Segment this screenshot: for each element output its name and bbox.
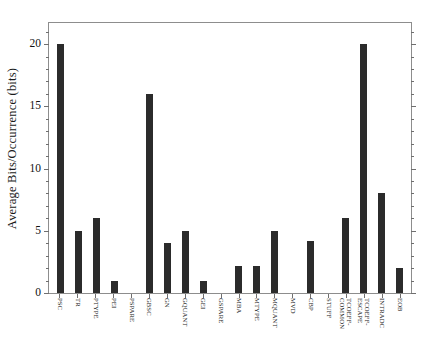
y-axis-tick-minor-right [411, 81, 414, 82]
bar-slot [105, 23, 123, 293]
x-axis-label-slot: MBA [230, 298, 248, 352]
y-axis-tick-minor-right [411, 181, 414, 182]
bar-slot [319, 23, 337, 293]
y-axis-title-container: Average Bits/Occurrence (bits) [0, 0, 26, 296]
bar [146, 94, 153, 293]
x-axis-label-slot: GQUANT [176, 298, 194, 352]
x-axis-label-slot: EOB [391, 298, 409, 352]
y-axis-tick-label: 20 [30, 38, 42, 50]
y-axis-tick-minor-right [411, 57, 414, 58]
bar [93, 218, 100, 293]
bar-slot [283, 23, 301, 293]
bar-slot [70, 23, 88, 293]
bar [75, 231, 82, 293]
bar [182, 231, 189, 293]
x-axis-tick-label: GEI [200, 298, 207, 309]
bar-slot [266, 23, 284, 293]
bar [360, 44, 367, 293]
bar [253, 266, 260, 293]
y-axis-tick-minor-right [411, 131, 414, 132]
bar-slot [355, 23, 373, 293]
bar-slot [212, 23, 230, 293]
y-axis-tick-minor-right [411, 69, 414, 70]
bar-slot [141, 23, 159, 293]
y-axis-tick-minor-right [411, 218, 414, 219]
y-axis-tick-label: 0 [35, 287, 41, 299]
bar-series [49, 23, 411, 293]
bar-slot [390, 23, 408, 293]
bar [200, 281, 207, 293]
y-axis-tick-minor-right [411, 193, 414, 194]
bar-slot [88, 23, 106, 293]
y-axis-tick-minor-right [411, 119, 414, 120]
y-axis-tick-minor-right [411, 94, 414, 95]
bar [57, 44, 64, 293]
bar [378, 193, 385, 293]
bar-slot [194, 23, 212, 293]
bar [164, 243, 171, 293]
bar-slot [230, 23, 248, 293]
x-axis-tick-label: MVD [289, 298, 296, 314]
bar-chart-figure: Average Bits/Occurrence (bits) 05101520 … [0, 0, 431, 352]
x-axis-label-slot: GSPARE [212, 298, 230, 352]
x-axis-tick-label: STUFF [325, 298, 332, 318]
y-axis-tick-minor-right [411, 281, 414, 282]
x-axis-label-slot: INTRADC [373, 298, 391, 352]
x-axis-label-slot: PTYPE [87, 298, 105, 352]
bar-slot [123, 23, 141, 293]
x-axis-tick-label: CBP [307, 298, 314, 311]
x-axis-tick-label: MBA [236, 298, 243, 313]
y-axis-tick-major-right [411, 106, 416, 107]
bar [342, 218, 349, 293]
y-axis-title: Average Bits/Occurrence (bits) [6, 67, 21, 228]
y-axis-tick-major-right [411, 169, 416, 170]
x-axis-tick-label: GQUANT [182, 298, 189, 326]
x-axis-tick-label: TCOEFF- ESCAPE [357, 298, 371, 325]
y-axis-tick-minor-right [411, 206, 414, 207]
x-axis-label-slot: PEI [105, 298, 123, 352]
x-axis-tick-label: PEI [110, 298, 117, 308]
bar [396, 268, 403, 293]
bar [111, 281, 118, 293]
x-axis-tick-label: TCOEFF- COMMON [339, 298, 353, 329]
y-axis-tick-major-right [411, 231, 416, 232]
bar-slot [372, 23, 390, 293]
x-axis-label-slot: CBP [302, 298, 320, 352]
y-axis-tick-label: 15 [30, 101, 42, 113]
x-axis-label-slot: MVD [284, 298, 302, 352]
bar-slot [159, 23, 177, 293]
x-axis-label-slot: MQUANT [266, 298, 284, 352]
x-axis-label-slot: STUFF [320, 298, 338, 352]
x-axis-tick-label: PSC [56, 298, 63, 310]
x-axis-label-slot: GEI [194, 298, 212, 352]
bar-slot [248, 23, 266, 293]
x-axis-label-slot: TCOEFF- COMMON [338, 298, 356, 352]
x-axis-tick-label: PSPARE [128, 298, 135, 322]
bar-slot [177, 23, 195, 293]
y-axis-tick-minor-right [411, 243, 414, 244]
x-axis-label-slot: PSPARE [123, 298, 141, 352]
x-axis-label-slot: MTYPE [248, 298, 266, 352]
x-axis-tick-label: PTYPE [92, 298, 99, 319]
y-axis-tick-minor-right [411, 256, 414, 257]
x-axis-tick-label: EOB [397, 298, 404, 312]
y-axis-tick-minor-right [411, 156, 414, 157]
bar-slot [52, 23, 70, 293]
x-axis-tick-label: INTRADC [379, 298, 386, 328]
bar [271, 231, 278, 293]
bar [235, 266, 242, 293]
x-axis-label-slot: GBSC [141, 298, 159, 352]
y-axis-tick-minor-right [411, 268, 414, 269]
x-axis-label-slot: TR [69, 298, 87, 352]
bar-slot [301, 23, 319, 293]
x-axis-tick-label: MTYPE [253, 298, 260, 321]
x-axis-tick-label: GN [164, 298, 171, 308]
x-axis-label-slot: GN [158, 298, 176, 352]
x-axis-label-slot: PSC [51, 298, 69, 352]
y-axis-tick-major-right [411, 44, 416, 45]
x-axis-labels: PSCTRPTYPEPEIPSPAREGBSCGNGQUANTGEIGSPARE… [48, 298, 412, 352]
bar-slot [337, 23, 355, 293]
x-axis-tick-label: GSPARE [218, 298, 225, 323]
y-axis-tick-label: 5 [35, 225, 41, 237]
y-axis-tick-minor-right [411, 32, 414, 33]
